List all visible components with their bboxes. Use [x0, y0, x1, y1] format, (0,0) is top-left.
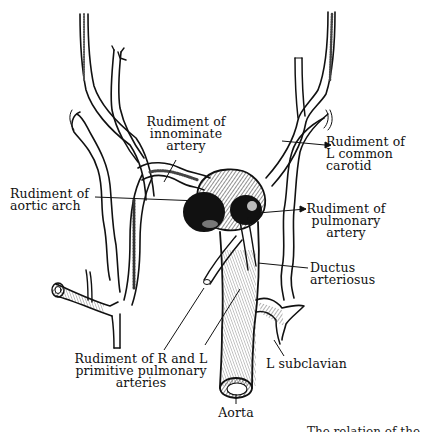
- right-subclavian: [52, 270, 120, 348]
- label-primitive-pulmonary: Rudiment of R and L primitive pulmonary …: [66, 353, 216, 389]
- right-dorsal-aorta: [124, 175, 152, 305]
- leader-pulmonary: [258, 209, 306, 213]
- pulmonary-orifice: [231, 196, 261, 224]
- label-pulmonary-artery: Rudiment of pulmonary artery: [305, 203, 387, 239]
- vessels: [52, 12, 335, 398]
- label-innominate: Rudiment of innominate artery: [136, 116, 236, 152]
- label-ductus-arteriosus: Ductus arteriosus: [310, 262, 375, 286]
- label-aorta: Aorta: [206, 407, 266, 419]
- left-subclavian: [256, 298, 304, 344]
- label-l-common-carotid: Rudiment of L common carotid: [326, 136, 405, 172]
- leader-pulm-R: [164, 288, 204, 350]
- right-external-carotid: [80, 14, 154, 200]
- caption-partial: ... The relation of the: [120, 424, 424, 432]
- label-l-subclavian: L subclavian: [266, 358, 347, 370]
- label-aortic-arch: Rudiment of aortic arch: [10, 188, 89, 212]
- left-common-carotid: [266, 12, 335, 186]
